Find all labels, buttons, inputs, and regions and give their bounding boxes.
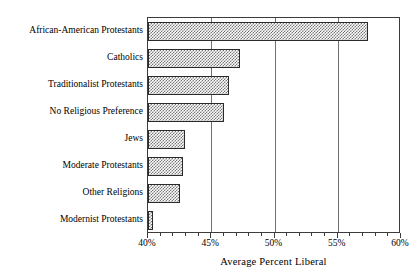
category-label: Other Religions <box>0 187 143 197</box>
bar <box>148 157 183 176</box>
category-label: Jews <box>0 133 143 143</box>
x-tick-label: 45% <box>190 238 230 248</box>
minor-tick <box>198 233 199 236</box>
bar-series <box>148 18 399 232</box>
bar <box>148 103 224 122</box>
minor-tick <box>362 233 363 236</box>
category-label: Catholics <box>0 52 143 62</box>
bar-row <box>148 18 399 45</box>
category-label: No Religious Preference <box>0 106 143 116</box>
minor-tick <box>236 233 237 236</box>
bar-chart: African-American ProtestantsCatholicsTra… <box>0 0 420 280</box>
bar <box>148 22 368 41</box>
minor-tick <box>160 233 161 236</box>
x-tick-label: 50% <box>254 238 294 248</box>
bar <box>148 130 185 149</box>
bar-row <box>148 45 399 72</box>
x-tick-label: 55% <box>317 238 357 248</box>
minor-tick <box>299 233 300 236</box>
bar <box>148 184 180 203</box>
x-axis-title: Average Percent Liberal <box>147 256 400 267</box>
bar-row <box>148 99 399 126</box>
x-tick-label: 60% <box>380 238 420 248</box>
minor-tick <box>172 233 173 236</box>
bar-row <box>148 153 399 180</box>
minor-tick <box>286 233 287 236</box>
minor-tick <box>185 233 186 236</box>
category-label: Moderate Protestants <box>0 160 143 170</box>
minor-tick <box>223 233 224 236</box>
bar <box>148 211 153 230</box>
bar <box>148 76 229 95</box>
minor-tick <box>387 233 388 236</box>
bar-row <box>148 180 399 207</box>
minor-tick <box>261 233 262 236</box>
minor-tick <box>324 233 325 236</box>
category-label: Modernist Protestants <box>0 214 143 224</box>
minor-tick <box>349 233 350 236</box>
x-tick-label: 40% <box>127 238 167 248</box>
bar <box>148 49 240 68</box>
bar-row <box>148 72 399 99</box>
category-label: African-American Protestants <box>0 25 143 35</box>
bar-row <box>148 126 399 153</box>
plot-area <box>147 17 400 233</box>
minor-tick <box>311 233 312 236</box>
category-label: Traditionalist Protestants <box>0 79 143 89</box>
minor-tick <box>248 233 249 236</box>
bar-row <box>148 207 399 234</box>
minor-tick <box>375 233 376 236</box>
